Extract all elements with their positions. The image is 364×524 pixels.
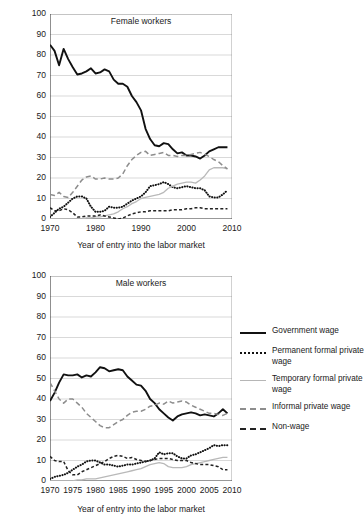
y-tick-label: 50 [16, 374, 46, 383]
legend-swatch-dotted-black-icon [240, 347, 266, 359]
chart-panel-female: Percentage of educated entrants Female w… [0, 0, 364, 262]
legend-label: Informal private wage [272, 402, 350, 413]
legend: Government wage Permanent formal private… [240, 326, 364, 442]
legend-item-permanent-formal-private-wage: Permanent formal private wage [240, 346, 364, 367]
legend-item-non-wage: Non-wage [240, 422, 364, 435]
y-tick-label: 70 [16, 71, 46, 80]
chart-title-male: Male workers [81, 278, 201, 288]
series-line-long-dash-gray [50, 383, 227, 428]
y-tick-label: 40 [16, 394, 46, 403]
x-axis-label-male: Year of entry into the labor market [50, 504, 232, 514]
y-tick-label: 10 [16, 194, 46, 203]
y-tick-label: 20 [16, 173, 46, 182]
y-tick-label: 100 [16, 9, 46, 18]
y-tick-label: 80 [16, 50, 46, 59]
legend-swatch-solid-black-icon [240, 327, 266, 339]
plot-area-female: Female workers 1009080706050403020100197… [50, 14, 232, 219]
chart-title-female: Female workers [81, 16, 201, 26]
y-tick-label: 60 [16, 91, 46, 100]
series-line-solid-gray [50, 457, 227, 481]
x-tick-label: 1980 [81, 224, 111, 233]
plot-svg-male [50, 276, 232, 481]
legend-label: Temporary formal private wage [272, 374, 364, 395]
series-line-solid-gray [50, 168, 227, 219]
y-tick-label: 10 [16, 456, 46, 465]
x-axis-label-female: Year of entry into the labor market [50, 240, 232, 250]
y-tick-label: 20 [16, 435, 46, 444]
legend-label: Permanent formal private wage [272, 346, 364, 367]
x-tick-label: 1990 [126, 224, 156, 233]
legend-label: Government wage [272, 326, 339, 337]
legend-swatch-short-dash-black-icon [240, 423, 266, 435]
series-line-short-dash-black [50, 455, 227, 474]
y-tick-label: 70 [16, 333, 46, 342]
plot-svg-female [50, 14, 232, 219]
y-tick-label: 60 [16, 353, 46, 362]
series-line-short-dash-black [50, 208, 227, 219]
y-tick-label: 90 [16, 292, 46, 301]
legend-label: Non-wage [272, 422, 309, 433]
y-tick-label: 0 [16, 476, 46, 485]
series-line-solid-black [50, 367, 227, 420]
y-tick-label: 0 [16, 214, 46, 223]
series-line-solid-black [50, 45, 227, 159]
y-tick-label: 40 [16, 132, 46, 141]
x-tick-label: 2010 [217, 486, 247, 495]
y-tick-label: 100 [16, 271, 46, 280]
plot-area-male: Male workers 100908070605040302010019701… [50, 276, 232, 481]
y-tick-label: 30 [16, 415, 46, 424]
legend-item-government-wage: Government wage [240, 326, 364, 339]
y-tick-label: 90 [16, 30, 46, 39]
legend-swatch-long-dash-gray-icon [240, 403, 266, 415]
y-tick-label: 50 [16, 112, 46, 121]
legend-item-temporary-formal-private-wage: Temporary formal private wage [240, 374, 364, 395]
x-tick-label: 2000 [172, 224, 202, 233]
y-tick-label: 80 [16, 312, 46, 321]
x-tick-label: 2010 [217, 224, 247, 233]
legend-swatch-solid-gray-icon [240, 375, 266, 387]
x-tick-label: 1970 [35, 224, 65, 233]
y-tick-label: 30 [16, 153, 46, 162]
legend-item-informal-private-wage: Informal private wage [240, 402, 364, 415]
figure-root: Percentage of educated entrants Female w… [0, 0, 364, 524]
